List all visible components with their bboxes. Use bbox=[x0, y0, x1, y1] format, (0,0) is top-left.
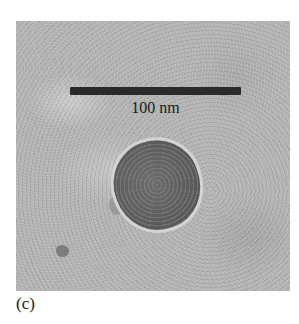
panel-label: (c) bbox=[16, 294, 35, 314]
tem-micrograph: 100 nm bbox=[16, 21, 290, 291]
debris-speck bbox=[56, 245, 69, 257]
scale-bar-label: 100 nm bbox=[70, 99, 241, 117]
scale-bar bbox=[70, 87, 241, 95]
